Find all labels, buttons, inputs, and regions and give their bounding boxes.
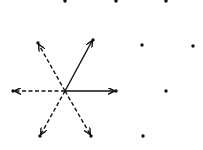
lattice-vector-diagram [0, 0, 203, 150]
arrow-to-top-left [39, 45, 65, 91]
lattice-dot [164, 89, 167, 92]
lattice-dot [36, 41, 39, 44]
lattice-dot [63, 0, 66, 3]
arrow-group [15, 41, 114, 134]
arrow-to-bottom-right [65, 91, 90, 134]
lattice-dot [141, 134, 144, 137]
arrow-to-bottom-left [41, 91, 65, 134]
arrow-to-top-right [65, 41, 92, 91]
lattice-dot [140, 43, 143, 46]
lattice-dot [91, 38, 94, 41]
lattice-dot [11, 89, 14, 92]
lattice-dot [38, 134, 41, 137]
lattice-dot [191, 44, 194, 47]
lattice-dot-group [11, 0, 194, 138]
lattice-dot [114, 0, 117, 3]
lattice-dot [89, 134, 92, 137]
lattice-dot [114, 89, 117, 92]
lattice-dot [164, 0, 167, 3]
